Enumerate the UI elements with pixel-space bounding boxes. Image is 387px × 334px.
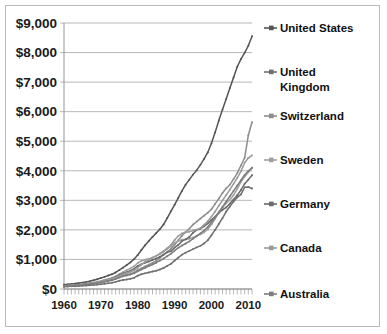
x-axis-tick-label: 1990 bbox=[162, 299, 188, 311]
legend-label: Australia bbox=[280, 288, 330, 300]
legend-marker-icon bbox=[264, 26, 277, 31]
legend-label: Canada bbox=[280, 242, 322, 254]
y-axis-tick-label: $2,000 bbox=[16, 223, 57, 238]
y-axis-tick-labels: $0$1,000$2,000$3,000$4,000$5,000$6,000$7… bbox=[16, 16, 57, 297]
legend-label: Switzerland bbox=[280, 110, 344, 122]
x-axis-tick-label: 1960 bbox=[51, 299, 77, 311]
x-axis-tick-label: 1970 bbox=[88, 299, 114, 311]
axis-lines bbox=[64, 23, 252, 289]
legend-label: United States bbox=[280, 22, 354, 34]
legend-marker-icon bbox=[264, 202, 277, 207]
y-axis-tick-label: $6,000 bbox=[16, 104, 57, 119]
line-chart: $0$1,000$2,000$3,000$4,000$5,000$6,000$7… bbox=[6, 6, 381, 328]
chart-plot-area: $0$1,000$2,000$3,000$4,000$5,000$6,000$7… bbox=[6, 6, 379, 326]
legend-item-sweden[interactable]: Sweden bbox=[264, 154, 323, 166]
series-line-united-kingdom bbox=[63, 186, 253, 288]
legend-label: Sweden bbox=[280, 154, 323, 166]
legend-item-united-states[interactable]: United States bbox=[264, 22, 354, 34]
y-axis-tick-label: $7,000 bbox=[16, 75, 57, 90]
legend-label: Germany bbox=[280, 198, 330, 210]
chart-legend: United StatesUnitedKingdomSwitzerlandSwe… bbox=[264, 22, 354, 300]
x-axis-tick-label: 2010 bbox=[236, 299, 262, 311]
x-axis-minor-ticks bbox=[64, 289, 252, 295]
y-axis-tick-label: $3,000 bbox=[16, 193, 57, 208]
chart-frame: $0$1,000$2,000$3,000$4,000$5,000$6,000$7… bbox=[5, 5, 380, 327]
legend-marker-icon bbox=[264, 158, 277, 163]
y-axis-tick-label: $4,000 bbox=[16, 164, 57, 179]
series-line-sweden bbox=[63, 167, 253, 287]
x-axis-tick-labels: 196019701980199020002010 bbox=[51, 299, 261, 311]
legend-marker-icon bbox=[264, 114, 277, 119]
legend-item-united-kingdom[interactable]: UnitedKingdom bbox=[264, 66, 330, 93]
x-axis-tick-label: 1980 bbox=[125, 299, 151, 311]
y-axis-tick-label: $9,000 bbox=[16, 16, 57, 31]
x-axis-tick-label: 2000 bbox=[199, 299, 225, 311]
legend-item-australia[interactable]: Australia bbox=[264, 288, 330, 300]
series-line-australia bbox=[63, 167, 253, 287]
legend-item-canada[interactable]: Canada bbox=[264, 242, 322, 254]
y-axis-tick-label: $8,000 bbox=[16, 45, 57, 60]
y-axis-tick-label: $0 bbox=[42, 282, 57, 297]
y-axis-tick-label: $1,000 bbox=[16, 252, 57, 267]
data-series-group bbox=[63, 35, 253, 287]
legend-marker-icon bbox=[264, 246, 277, 251]
legend-marker-icon bbox=[264, 292, 277, 297]
legend-label: United bbox=[280, 66, 316, 78]
gridlines-group bbox=[60, 23, 252, 289]
series-line-canada bbox=[63, 154, 253, 286]
legend-label: Kingdom bbox=[280, 81, 330, 93]
series-line-united-states bbox=[63, 35, 253, 285]
legend-item-switzerland[interactable]: Switzerland bbox=[264, 110, 344, 122]
legend-item-germany[interactable]: Germany bbox=[264, 198, 330, 210]
legend-marker-icon bbox=[264, 70, 277, 75]
y-axis-tick-label: $5,000 bbox=[16, 134, 57, 149]
